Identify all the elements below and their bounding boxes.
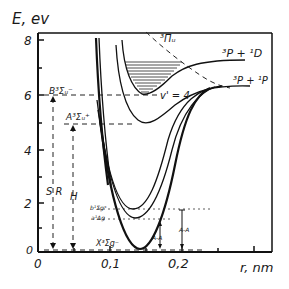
y-tick-label-8: 8 bbox=[24, 34, 32, 48]
sr-annotation: S R bbox=[46, 186, 62, 197]
a-state-label: a¹Δg bbox=[91, 214, 105, 222]
a3-state-label: A³Σᵤ⁺ bbox=[65, 112, 90, 122]
b3-state-label: B³Σᵤ⁻ bbox=[49, 86, 73, 96]
vibrational-level-label: v' = 4 bbox=[160, 90, 190, 101]
pi-u-label: ³Πᵤ bbox=[160, 33, 176, 44]
b-state-label: b¹Σg⁺ bbox=[90, 204, 107, 212]
x-tick-label-0-1: 0,1 bbox=[101, 257, 120, 271]
vibrational-levels-hatch bbox=[125, 62, 182, 92]
x-axis-label: r, nm bbox=[240, 260, 273, 275]
y-tick-label-4: 4 bbox=[24, 144, 32, 158]
y-axis-label: E, ev bbox=[12, 10, 50, 28]
y-tick-label-2: 2 bbox=[24, 197, 32, 211]
a-state-curve bbox=[98, 87, 215, 218]
x-state-label: X³Σg⁻ bbox=[95, 239, 119, 248]
potential-energy-diagram: E, ev r, nm 8 6 4 2 0 0 0,1 0,2 S R H A-… bbox=[0, 0, 289, 289]
y-tick-label-6: 6 bbox=[24, 89, 32, 103]
y-tick-label-0: 0 bbox=[26, 244, 33, 257]
x-tick-label-0: 0 bbox=[34, 257, 42, 271]
asymptote-upper-label: ³P + ¹D bbox=[222, 47, 262, 60]
x-tick-label-0-2: 0,2 bbox=[168, 256, 189, 271]
h-annotation: H bbox=[70, 191, 78, 202]
asymptote-lower-label: ³P + ¹P bbox=[233, 75, 269, 86]
aa-annotation-2: A-A bbox=[178, 226, 189, 233]
x-state-curve bbox=[100, 88, 210, 249]
